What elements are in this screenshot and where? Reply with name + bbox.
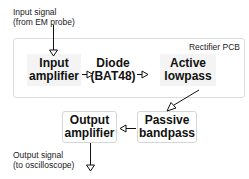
output-arrow-icon [87,143,95,171]
arrows-layer [0,0,249,179]
arrow-input-to-diode-icon [82,71,93,78]
arrow-diode-to-lowpass-icon [137,71,148,78]
arrow-lowpass-to-bandpass-icon [167,90,199,111]
input-arrow-icon [50,25,58,56]
arrow-bandpass-to-output-icon [120,125,136,132]
